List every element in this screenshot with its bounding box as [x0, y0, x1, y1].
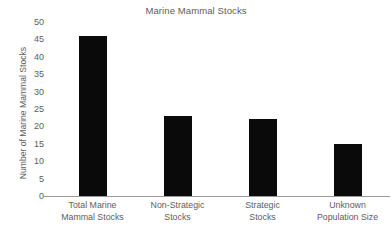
bar: [164, 116, 192, 196]
x-axis-line: [44, 196, 390, 197]
x-tick-label-line: Population Size: [305, 212, 390, 224]
chart-title: Marine Mammal Stocks: [0, 5, 392, 16]
bars-layer: [50, 22, 390, 196]
y-tick-label: 50: [16, 17, 44, 27]
x-tick-label: StrategicStocks: [220, 200, 305, 223]
bar-chart: Marine Mammal Stocks Number of Marine Ma…: [0, 0, 392, 238]
x-tick-label-line: Stocks: [135, 212, 220, 224]
y-tick-label: 45: [16, 34, 44, 44]
x-axis-tick-labels: Total MarineMammal StocksNon-StrategicSt…: [50, 200, 390, 236]
x-tick-label-line: Stocks: [220, 212, 305, 224]
y-tick-label: 10: [16, 156, 44, 166]
x-tick-label: Non-StrategicStocks: [135, 200, 220, 223]
bar: [334, 144, 362, 196]
x-tick-label-line: Mammal Stocks: [50, 212, 135, 224]
y-tick-label: 30: [16, 87, 44, 97]
plot-area: 05101520253035404550: [50, 22, 390, 197]
y-tick-label: 35: [16, 69, 44, 79]
y-tick-label: 5: [16, 174, 44, 184]
bar: [79, 36, 107, 196]
x-tick-label-line: Unknown: [305, 200, 390, 212]
y-tick-label: 15: [16, 139, 44, 149]
x-tick-label-line: Strategic: [220, 200, 305, 212]
x-tick-label-line: Total Marine: [50, 200, 135, 212]
x-tick-label-line: Non-Strategic: [135, 200, 220, 212]
x-tick-label: Total MarineMammal Stocks: [50, 200, 135, 223]
y-tick-label: 25: [16, 104, 44, 114]
y-tick-label: 0: [16, 191, 44, 201]
y-tick-label: 40: [16, 52, 44, 62]
x-tick-label: UnknownPopulation Size: [305, 200, 390, 223]
y-tick-label: 20: [16, 121, 44, 131]
bar: [249, 119, 277, 196]
